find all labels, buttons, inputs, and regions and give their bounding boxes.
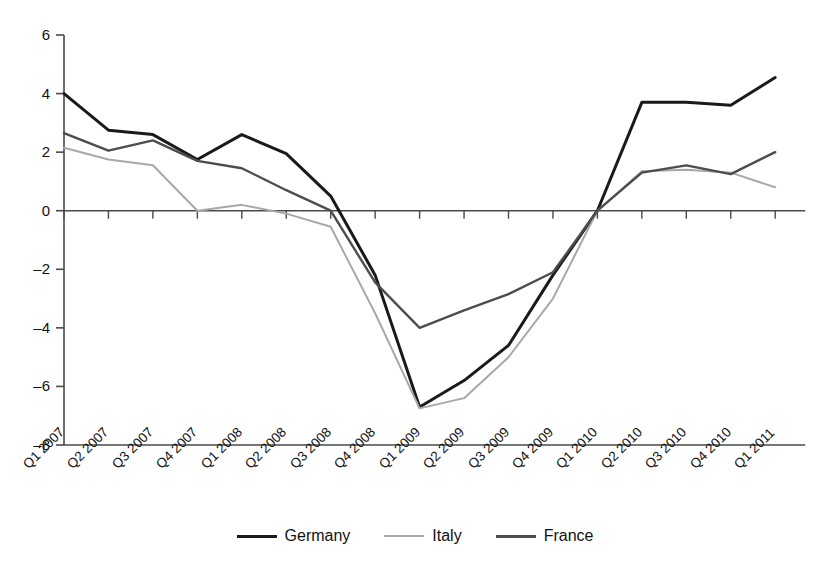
series-line-germany [64,77,775,406]
y-tick-label: 4 [6,85,50,102]
series-layer [64,77,775,408]
plot-area [0,0,830,577]
legend-swatch-italy [384,535,424,537]
legend-label-germany: Germany [285,527,351,545]
axis-layer [56,35,805,445]
legend-item-italy: Italy [384,527,461,545]
legend-item-france: France [496,527,594,545]
y-tick-label: 6 [6,26,50,43]
legend-label-italy: Italy [432,527,461,545]
series-line-italy [64,148,775,409]
y-tick-label: 0 [6,202,50,219]
legend-label-france: France [544,527,594,545]
y-tick-label: 2 [6,143,50,160]
chart-legend: GermanyItalyFrance [0,527,830,545]
series-line-france [64,133,775,328]
legend-item-germany: Germany [237,527,351,545]
y-tick-label: –2 [6,260,50,277]
line-chart: 6420–2–4–6–8 Q1 2007Q2 2007Q3 2007Q4 200… [0,0,830,577]
legend-swatch-germany [237,535,277,538]
legend-swatch-france [496,535,536,538]
y-tick-label: –4 [6,319,50,336]
y-tick-label: –6 [6,377,50,394]
